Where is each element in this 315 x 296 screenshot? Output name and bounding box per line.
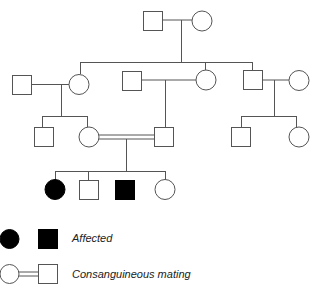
legend-consanguineous-male-icon: [39, 265, 58, 284]
female-I-2: [192, 11, 212, 31]
legend-affected-male-icon: [39, 230, 58, 249]
female-III-2: [79, 127, 99, 147]
male-III-1: [35, 128, 54, 147]
legend-affected-female-icon: [0, 230, 19, 249]
female-II-2: [69, 75, 89, 95]
male-II-1: [13, 76, 32, 95]
male-I-1: [144, 12, 163, 31]
male-III-4: [232, 128, 251, 147]
legend-consanguineous-female-icon: [0, 265, 19, 284]
legend-consanguineous-label: Consanguineous mating: [72, 268, 191, 280]
affected-female-IV-1: [45, 180, 65, 200]
male-II-3: [123, 72, 142, 91]
female-III-5: [289, 127, 309, 147]
female-II-6: [289, 71, 309, 91]
pedigree-chart: [0, 0, 315, 296]
legend-affected-label: Affected: [72, 232, 112, 244]
female-II-4: [196, 70, 216, 90]
male-IV-2: [80, 181, 99, 200]
female-IV-4: [155, 180, 175, 200]
male-II-5: [244, 71, 263, 90]
affected-male-IV-3: [116, 181, 135, 200]
male-III-3: [155, 128, 174, 147]
